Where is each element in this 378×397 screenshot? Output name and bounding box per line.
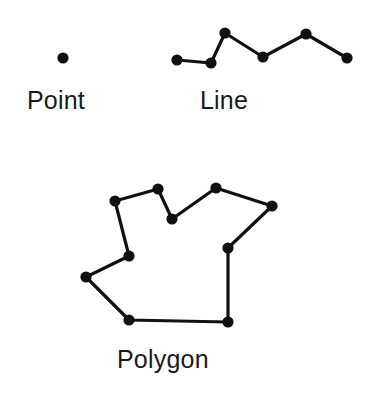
polygon-vertex-node [222, 316, 233, 327]
polygon-vertex-node [109, 195, 120, 206]
polygon-vertex-node [123, 250, 134, 261]
polygon-vertex-node [166, 213, 177, 224]
polygon-label: Polygon [117, 347, 209, 372]
polyline-vertex-node [205, 57, 216, 68]
point-label: Point [27, 88, 85, 113]
polygon-vertex-node [210, 182, 221, 193]
geometry-canvas [0, 0, 378, 397]
line-label: Line [200, 88, 248, 113]
polygon-vertex-node [152, 183, 163, 194]
polygon-vertex-node [222, 242, 233, 253]
polygon-vertex-node [123, 314, 134, 325]
polyline-vertex-node [171, 54, 182, 65]
polyline-vertex-node [300, 28, 311, 39]
polygon-path [86, 188, 272, 322]
polygon-geometry [80, 182, 277, 327]
polyline-vertex-node [257, 51, 268, 62]
line-geometry [171, 27, 352, 68]
point-vertex-node [57, 52, 68, 63]
geometry-figure: Point Line Polygon [0, 0, 378, 397]
point-geometry [57, 52, 68, 63]
polyline-vertex-node [341, 52, 352, 63]
polygon-vertex-node [266, 200, 277, 211]
polyline-vertex-node [219, 27, 230, 38]
polygon-vertex-node [80, 271, 91, 282]
